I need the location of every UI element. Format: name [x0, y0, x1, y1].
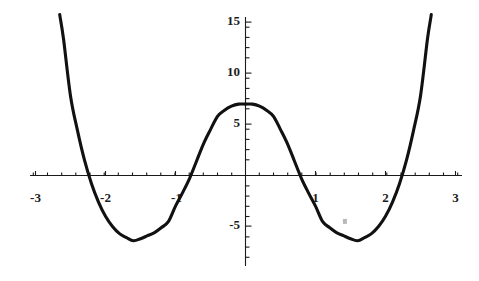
y-tick-label-10: 10	[227, 64, 240, 79]
x-tick-label-3: 3	[452, 190, 459, 205]
y-axis-major-ticks	[246, 22, 252, 226]
stray-pixel-artifact	[343, 219, 347, 224]
x-tick-label-neg3: -3	[30, 190, 41, 205]
x-tick-label-2: 2	[382, 190, 389, 205]
y-tick-label-15: 15	[227, 13, 241, 28]
plot-container: -3 -2 -1 1 2 3 15 10 5 -5	[0, 0, 479, 281]
y-axis-minor-ticks	[246, 27, 250, 257]
quartic-function-plot: -3 -2 -1 1 2 3 15 10 5 -5	[0, 0, 479, 281]
y-tick-label-neg5: -5	[229, 217, 240, 232]
x-tick-label-neg2: -2	[100, 190, 111, 205]
y-tick-label-5: 5	[234, 115, 241, 130]
